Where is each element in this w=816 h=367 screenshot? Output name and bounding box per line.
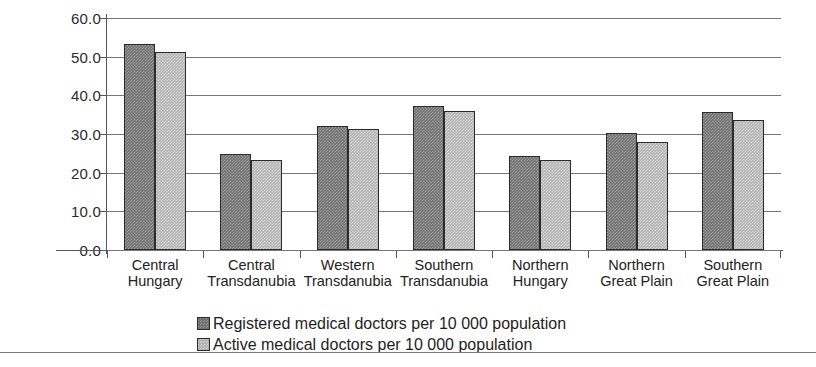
x-axis-category-label-line: Central	[228, 257, 275, 273]
bar-group	[492, 18, 588, 250]
y-axis-tick-label: 50.0	[71, 48, 101, 65]
y-axis-tick-label: 30.0	[71, 126, 101, 143]
x-axis-category-label-line: Transdanubia	[203, 273, 299, 289]
bar-group	[300, 18, 396, 250]
bar-registered	[317, 126, 348, 251]
x-axis-tick	[588, 251, 589, 258]
x-axis-category-label-line: Great Plain	[588, 273, 684, 289]
bar-active	[540, 160, 571, 250]
y-axis-labels: 0.010.020.030.040.050.060.0	[0, 0, 101, 367]
x-axis-category: SouthernGreat Plain	[685, 251, 781, 297]
bar-groups	[107, 18, 781, 250]
y-axis-tick-label: 60.0	[71, 10, 101, 27]
x-axis-category-label-line: Hungary	[107, 273, 203, 289]
y-axis-tick	[100, 211, 107, 212]
bar-registered	[509, 156, 540, 250]
x-axis-category-label-line: Northern	[608, 257, 664, 273]
x-axis-category: CentralHungary	[107, 251, 203, 297]
bar-group	[396, 18, 492, 250]
y-axis-tick-label: 40.0	[71, 87, 101, 104]
bar-registered	[702, 112, 733, 250]
bar-group	[588, 18, 684, 250]
bar-registered	[413, 106, 444, 250]
bar-group	[203, 18, 299, 250]
bar-active	[348, 129, 379, 250]
x-axis-tick	[685, 251, 686, 258]
x-axis-category: NorthernGreat Plain	[588, 251, 684, 297]
y-axis-tick	[100, 134, 107, 135]
bar-group	[685, 18, 781, 250]
footer-divider	[0, 352, 816, 353]
bar-active	[155, 52, 186, 250]
bar-active	[444, 111, 475, 250]
x-axis-tick	[300, 251, 301, 258]
y-axis-tick-label: 10.0	[71, 203, 101, 220]
y-axis-tick	[100, 250, 107, 251]
x-axis-category-labels: CentralHungaryCentralTransdanubiaWestern…	[107, 251, 781, 297]
x-axis-category-label-line: Hungary	[492, 273, 588, 289]
y-axis-tick	[100, 57, 107, 58]
x-axis-category: CentralTransdanubia	[203, 251, 299, 297]
bar-active	[251, 160, 282, 250]
x-axis-tick	[107, 251, 108, 258]
x-axis-tick	[780, 251, 781, 258]
y-axis-tick	[100, 18, 107, 19]
bar-group	[107, 18, 203, 250]
bar-registered	[606, 133, 637, 250]
bar-active	[637, 142, 668, 250]
y-axis-tick-label: 20.0	[71, 164, 101, 181]
legend-item: Registered medical doctors per 10 000 po…	[197, 313, 566, 334]
x-axis-category-label-line: Southern	[415, 257, 474, 273]
x-axis-tick	[396, 251, 397, 258]
x-axis-category-label-line: Northern	[512, 257, 568, 273]
x-axis-category-label-line: Western	[321, 257, 375, 273]
x-axis-category: SouthernTransdanubia	[396, 251, 492, 297]
x-axis-category-label-line: Southern	[703, 257, 762, 273]
legend-swatch-active	[197, 338, 210, 351]
x-axis-category-label-line: Transdanubia	[396, 273, 492, 289]
bar-registered	[124, 44, 155, 250]
bar-registered	[220, 154, 251, 250]
x-axis-category-label-line: Central	[132, 257, 179, 273]
chart-legend: Registered medical doctors per 10 000 po…	[197, 313, 566, 355]
x-axis-category-label-line: Great Plain	[685, 273, 781, 289]
x-axis-category-label-line: Transdanubia	[300, 273, 396, 289]
x-axis-tick	[492, 251, 493, 258]
x-axis-category: NorthernHungary	[492, 251, 588, 297]
legend-label: Registered medical doctors per 10 000 po…	[213, 315, 566, 333]
x-axis-category: WesternTransdanubia	[300, 251, 396, 297]
bar-chart-figure: 0.010.020.030.040.050.060.0 CentralHunga…	[0, 0, 816, 367]
y-axis-tick	[100, 95, 107, 96]
x-axis-tick	[203, 251, 204, 258]
bar-active	[733, 120, 764, 250]
legend-label: Active medical doctors per 10 000 popula…	[213, 336, 532, 354]
y-axis-tick	[100, 173, 107, 174]
legend-swatch-registered	[197, 317, 210, 330]
